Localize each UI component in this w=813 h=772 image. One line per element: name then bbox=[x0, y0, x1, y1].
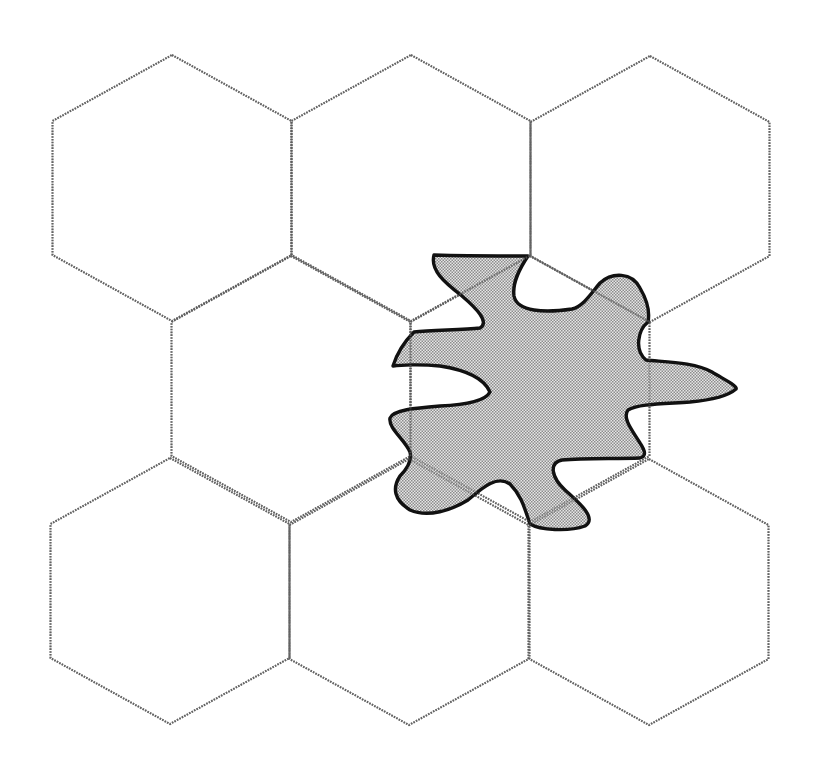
cell-r0-c0 bbox=[53, 55, 292, 321]
coverage-blob bbox=[390, 255, 736, 530]
cell-r2-c0 bbox=[51, 458, 290, 724]
hex-grid-diagram bbox=[0, 0, 813, 772]
cell-r0-c2 bbox=[531, 56, 770, 322]
cell-r2-c0-overlay bbox=[51, 458, 290, 724]
cell-r1-c0 bbox=[172, 256, 411, 522]
cell-r0-c0-overlay bbox=[53, 55, 292, 321]
cell-r1-c0-overlay bbox=[172, 256, 411, 522]
cell-r0-c2-overlay bbox=[531, 56, 770, 322]
